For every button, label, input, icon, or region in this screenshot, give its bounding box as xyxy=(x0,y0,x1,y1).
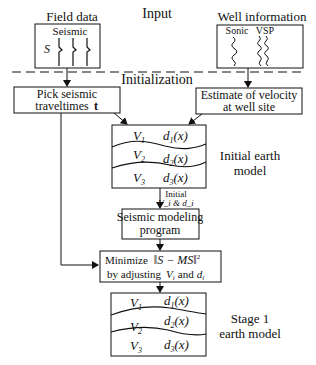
svg-text:d2(x): d2(x) xyxy=(164,313,189,330)
arrow-pick-to-minimize xyxy=(61,113,98,265)
minimize-line2: by adjustingVianddi xyxy=(107,268,204,282)
initial-model-label-2: model xyxy=(234,163,267,178)
minimize-line1: Minimize‖S − MS‖2 xyxy=(105,253,201,267)
stage1-earth-model-box xyxy=(111,293,206,356)
svg-text:d3(x): d3(x) xyxy=(163,170,188,187)
pick-line2: traveltimes xyxy=(35,99,89,113)
arrow-estimate-to-model xyxy=(189,114,202,124)
input-section-label: Input xyxy=(142,6,172,21)
modeling-line2: program xyxy=(140,223,181,237)
estimate-line2: at well site xyxy=(223,100,275,114)
initial-earth-model-box xyxy=(112,125,206,188)
seismic-label: Seismic xyxy=(53,25,88,37)
field-data-title: Field data xyxy=(46,9,98,24)
workflow-diagram: Input Field data Seismic S Well informat… xyxy=(0,0,316,365)
initialization-section-label: Initialization xyxy=(121,72,193,87)
svg-text:d1(x): d1(x) xyxy=(164,293,189,310)
svg-text:d2(x): d2(x) xyxy=(163,151,188,168)
stage1-label-1: Stage 1 xyxy=(231,311,270,326)
modeling-line1: Seismic modeling xyxy=(117,210,203,224)
well-info-title: Well information xyxy=(218,9,307,24)
traveltime-symbol: t xyxy=(94,99,98,113)
sonic-label: Sonic xyxy=(226,25,249,36)
svg-text:d1(x): d1(x) xyxy=(163,128,188,145)
vsp-label: VSP xyxy=(256,25,275,36)
initial-params-line2: V_i & d_i xyxy=(158,198,194,208)
arrow-pick-to-model xyxy=(114,113,127,124)
initial-model-label-1: Initial earth xyxy=(220,148,281,163)
seismic-symbol: S xyxy=(44,42,50,56)
svg-text:d3(x): d3(x) xyxy=(164,337,189,354)
stage1-label-2: earth model xyxy=(219,326,281,341)
